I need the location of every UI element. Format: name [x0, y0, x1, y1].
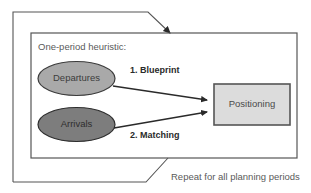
diagram-graphics — [0, 0, 311, 193]
diagram-canvas: One-period heuristic: Departures Arrival… — [0, 0, 311, 193]
arrivals-node-label: Arrivals — [38, 118, 115, 129]
blueprint-arrow — [113, 86, 207, 100]
positioning-node-label: Positioning — [214, 98, 290, 109]
departures-node-label: Departures — [38, 72, 115, 83]
outer-loop-bottom-path — [13, 158, 168, 182]
heuristic-title: One-period heuristic: — [38, 41, 126, 52]
blueprint-edge-label: 1. Blueprint — [130, 65, 180, 75]
matching-edge-label: 2. Matching — [130, 130, 180, 140]
matching-arrow — [114, 112, 207, 128]
outer-loop-caption: Repeat for all planning periods — [171, 171, 300, 182]
outer-loop-top-path — [13, 12, 170, 182]
